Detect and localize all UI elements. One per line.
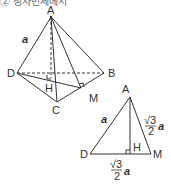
edge-AB — [51, 17, 104, 73]
vertex-dot-A — [50, 16, 53, 19]
fraction-DM-variable: a — [124, 165, 130, 177]
label-C: C — [52, 104, 60, 116]
right-angle-mark-H2 — [126, 150, 130, 154]
label-H: H — [45, 82, 53, 94]
fraction-AM-denominator: 2 — [148, 125, 154, 137]
label-M: M — [89, 92, 98, 104]
tri-label-M: M — [153, 148, 162, 160]
edge-label-a: a — [22, 33, 28, 45]
fraction-DM-numerator: √3 — [110, 158, 122, 170]
fraction-DM: √3 2 a — [110, 158, 130, 182]
geometry-diagram: A D B C H M a A D H M a √3 2 a √3 2 a — [0, 0, 171, 187]
cross-section-triangle — [90, 97, 151, 154]
tri-label-D: D — [80, 148, 88, 160]
tetrahedron — [17, 17, 104, 102]
label-D: D — [7, 67, 15, 79]
tri-side-label-a: a — [101, 113, 107, 125]
tri-label-A: A — [122, 83, 130, 95]
fraction-AM-variable: a — [158, 120, 164, 132]
side-AD — [90, 97, 130, 154]
fraction-AM: √3 2 a — [144, 114, 164, 137]
label-A: A — [47, 4, 55, 16]
edge-AD — [17, 17, 51, 73]
tri-label-H: H — [133, 141, 141, 153]
label-B: B — [108, 67, 115, 79]
right-angle-mark-H — [47, 75, 51, 79]
fraction-DM-denominator: 2 — [114, 170, 120, 182]
